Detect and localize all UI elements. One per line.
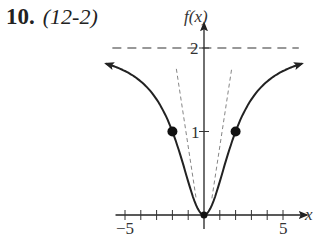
curve-right-branch xyxy=(206,64,302,215)
y-tick-label: 2 xyxy=(190,39,199,58)
function-graph: f(x)x−5512 xyxy=(0,0,321,235)
curve-left-branch xyxy=(106,64,204,215)
y-axis-label: f(x) xyxy=(184,7,208,26)
x-tick-label: 5 xyxy=(279,219,288,235)
axes xyxy=(116,23,307,229)
data-point xyxy=(167,127,177,137)
y-tick-label: 1 xyxy=(191,123,200,142)
data-point xyxy=(201,212,208,219)
data-point xyxy=(231,127,241,137)
x-tick-label: −5 xyxy=(116,219,134,235)
x-axis-label: x xyxy=(304,205,313,224)
dashed-lines xyxy=(112,48,298,198)
dashed-guide-line xyxy=(212,69,232,198)
